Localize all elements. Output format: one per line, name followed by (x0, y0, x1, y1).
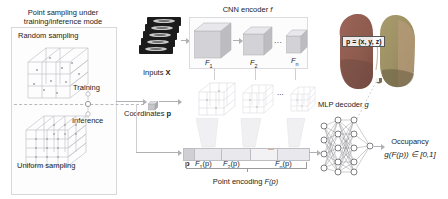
arrow-encoder-to-grid-n (295, 68, 296, 80)
inputs-label: Inputs X (143, 69, 171, 78)
cnn-encoder-title-text: CNN encoder (223, 5, 268, 14)
occupancy-formula: g(F(p)) ∈ [0,1] (373, 150, 447, 159)
lung-3d-render: p = (x, y, z) (330, 8, 424, 96)
coordinates-label: Coordinates p (124, 110, 171, 119)
feature-n-sub: n (296, 61, 299, 67)
arrow-encoder-to-grid-2 (255, 68, 256, 80)
arrow-sampling-to-coordinates (116, 101, 146, 102)
random-sampling-label: Random sampling (18, 32, 78, 41)
cnn-encoder-symbol: f (270, 5, 272, 14)
occupancy-title: Occupancy (391, 137, 429, 146)
feature-cube-2-label: F2 (250, 59, 258, 69)
input-slice (139, 45, 173, 54)
coordinates-label-text: Coordinates (124, 109, 164, 118)
feature-cube-1-label: F1 (205, 59, 213, 69)
arrow-coordinates-to-grids (159, 101, 181, 102)
figure-canvas: Point sampling under training/inference … (0, 0, 448, 199)
arrow-inputs-to-encoder (181, 40, 189, 41)
point-encoding-brace (186, 162, 307, 169)
connector-coordinates-down (136, 104, 137, 152)
inputs-slice-stack (139, 17, 181, 65)
feature-cube-n (286, 29, 308, 59)
uniform-sampling-label: Uniform sampling (17, 162, 75, 171)
feature-1-sub: 1 (210, 63, 213, 69)
coordinate-equation-box: p = (x, y, z) (342, 36, 385, 47)
encoder-ellipsis: ... (274, 36, 282, 45)
sampling-title-line1: Point sampling under (28, 8, 98, 17)
arrow-to-encoding-bar (136, 152, 181, 153)
sampled-grid-ellipsis: ... (277, 88, 284, 97)
cnn-encoder-title: CNN encoder f (189, 6, 306, 15)
inputs-symbol: X (166, 68, 171, 77)
feature-cube-n-label: Fn (291, 57, 299, 67)
sampling-title: Point sampling under training/inference … (11, 9, 115, 27)
feature-cube-1 (194, 22, 232, 64)
occupancy-output: Occupancy (375, 138, 445, 147)
arrow-encoder-to-grid-1 (214, 68, 215, 80)
inputs-label-text: Inputs (143, 68, 163, 77)
sampled-grid-2 (240, 82, 274, 120)
sampled-grid-n (288, 84, 316, 118)
coordinate-cube-icon (148, 97, 157, 106)
sampled-grid-1 (196, 80, 236, 122)
point-encoding-caption-symbol: F(p) (264, 177, 278, 186)
coordinates-symbol: p (167, 109, 172, 118)
point-encoding-caption-prefix: Point encoding (213, 177, 263, 186)
grid-to-encoding-funnels (183, 118, 308, 149)
encoding-bar-ellipsis: ... (268, 144, 274, 152)
sampling-title-line2: training/inference mode (24, 17, 102, 26)
feature-cube-2 (243, 26, 273, 61)
arrow-feature1-to-feature2 (233, 40, 242, 41)
point-encoding-caption: Point encoding F(p) (183, 178, 308, 187)
